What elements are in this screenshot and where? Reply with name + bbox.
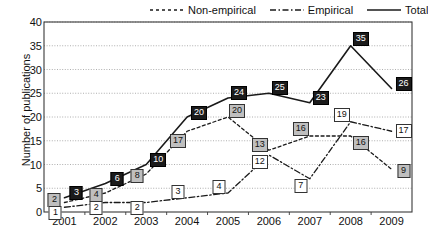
data-label: 8 (131, 169, 144, 183)
data-label: 20 (191, 106, 207, 120)
data-label: 25 (272, 81, 288, 95)
data-label: 17 (170, 134, 186, 148)
data-label: 35 (353, 32, 369, 46)
data-label: 13 (252, 138, 268, 152)
data-label: 9 (397, 164, 410, 178)
data-label: 6 (111, 172, 124, 186)
data-label: 3 (70, 186, 83, 200)
data-label: 10 (150, 153, 166, 167)
data-label: 23 (313, 91, 329, 105)
data-label: 24 (231, 86, 247, 100)
data-label: 12 (252, 155, 268, 169)
data-label: 3 (172, 185, 185, 199)
data-label: 16 (293, 122, 309, 136)
data-label: 20 (229, 104, 245, 118)
data-label: 7 (294, 179, 307, 193)
data-label: 16 (353, 136, 369, 150)
data-label: 2 (131, 201, 144, 215)
data-label: 4 (213, 180, 226, 194)
series-line-empirical (64, 122, 391, 208)
data-label: 17 (396, 124, 412, 138)
series-line-non-empirical (64, 117, 391, 203)
data-label: 2 (48, 193, 61, 207)
data-label: 19 (334, 108, 350, 122)
data-label: 1 (49, 206, 62, 220)
data-label: 2 (90, 201, 103, 215)
data-label: 26 (396, 77, 412, 91)
